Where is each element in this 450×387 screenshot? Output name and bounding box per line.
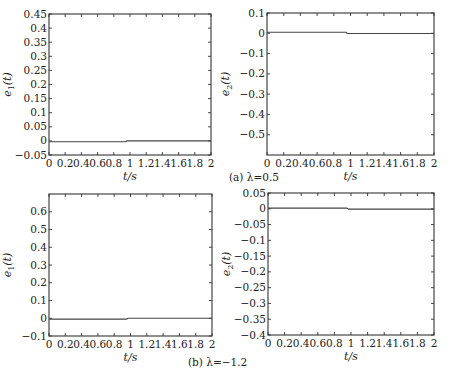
x-tick-label: 0.8 bbox=[325, 157, 342, 169]
y-tick-label: 0.3 bbox=[30, 50, 47, 62]
x-tick-label: 1.8 bbox=[186, 157, 203, 169]
caption-a: (a) λ=0.5 bbox=[229, 171, 279, 183]
x-tick-label: 1.2 bbox=[138, 338, 155, 350]
y-axis-label: e2(t) bbox=[219, 72, 234, 97]
x-tick-label: 0.8 bbox=[105, 157, 122, 169]
plot-frame bbox=[267, 13, 434, 155]
x-tick-label: 2 bbox=[208, 157, 215, 169]
y-tick-label: −0.5 bbox=[240, 128, 266, 140]
plot-frame bbox=[49, 14, 211, 155]
y-tick-label: −0.3 bbox=[240, 88, 266, 100]
y-tick-label: 0.2 bbox=[30, 276, 47, 288]
chart-a-e1: 00.20.40.60.811.21.41.61.82−0.0500.050.1… bbox=[1, 8, 214, 184]
y-tick-label: 0.45 bbox=[24, 8, 47, 20]
y-tick-label: 0.1 bbox=[30, 294, 47, 306]
x-tick-label: 1.6 bbox=[392, 337, 409, 349]
y-tick-label: 0.1 bbox=[30, 106, 47, 118]
x-tick-label: 0.2 bbox=[57, 338, 74, 350]
x-tick-label: 0.4 bbox=[293, 337, 310, 349]
y-tick-label: 0 bbox=[40, 312, 47, 324]
x-axis-label: t/s bbox=[344, 350, 358, 363]
y-tick-label: −0.2 bbox=[240, 67, 266, 79]
x-tick-label: 1.8 bbox=[409, 157, 426, 169]
x-tick-label: 1 bbox=[347, 157, 354, 169]
y-tick-label: 0.3 bbox=[30, 259, 47, 271]
y-tick-label: −0.4 bbox=[241, 329, 267, 341]
x-tick-label: 2 bbox=[431, 157, 438, 169]
x-tick-label: 1 bbox=[348, 337, 355, 349]
y-tick-label: 0.4 bbox=[30, 22, 47, 34]
x-tick-label: 1.4 bbox=[155, 338, 172, 350]
y-tick-label: 0 bbox=[40, 134, 47, 146]
figure-canvas: 00.20.40.60.811.21.41.61.82−0.0500.050.1… bbox=[0, 0, 450, 387]
y-axis-label: e2(t) bbox=[220, 252, 235, 277]
series-line-e1 bbox=[49, 318, 212, 319]
x-tick-label: 0 bbox=[264, 157, 271, 169]
x-tick-label: 1.6 bbox=[392, 157, 409, 169]
x-tick-label: 0.4 bbox=[73, 157, 90, 169]
plots-layer: 00.20.40.60.811.21.41.61.82−0.0500.050.1… bbox=[1, 7, 437, 365]
x-tick-label: 0.8 bbox=[106, 338, 123, 350]
x-tick-label: 0.6 bbox=[89, 157, 106, 169]
x-tick-label: 1 bbox=[127, 157, 134, 169]
y-tick-label: −0.2 bbox=[241, 265, 267, 277]
chart-b-e1: 00.20.40.60.811.21.41.61.82−0.100.10.20.… bbox=[1, 194, 215, 364]
y-tick-label: 0 bbox=[258, 27, 265, 39]
x-tick-label: 1.6 bbox=[170, 157, 187, 169]
x-tick-label: 0.6 bbox=[309, 157, 326, 169]
y-tick-label: −0.1 bbox=[22, 330, 48, 342]
y-tick-label: 0.2 bbox=[30, 78, 47, 90]
x-axis-label: t/s bbox=[124, 351, 138, 364]
x-tick-label: 0.8 bbox=[326, 337, 343, 349]
y-tick-label: 0.15 bbox=[24, 92, 47, 104]
y-tick-label: −0.1 bbox=[241, 234, 267, 246]
y-tick-label: 0.5 bbox=[30, 223, 47, 235]
y-tick-label: −0.35 bbox=[234, 313, 266, 325]
y-tick-label: 0.6 bbox=[30, 205, 47, 217]
x-tick-label: 2 bbox=[431, 337, 438, 349]
x-tick-label: 1.4 bbox=[376, 157, 393, 169]
x-tick-label: 0.2 bbox=[275, 157, 292, 169]
chart-b-e2: 00.20.40.60.811.21.41.61.82−0.4−0.35−0.3… bbox=[220, 187, 437, 364]
y-tick-label: 0.05 bbox=[24, 120, 47, 132]
x-tick-label: 1.4 bbox=[154, 157, 171, 169]
plot-frame bbox=[268, 193, 434, 335]
chart-a-e2: 00.20.40.60.811.21.41.61.82−0.5−0.4−0.3−… bbox=[219, 7, 437, 184]
x-tick-label: 2 bbox=[209, 338, 216, 350]
y-tick-label: −0.05 bbox=[15, 149, 47, 161]
x-tick-label: 1.2 bbox=[359, 157, 376, 169]
y-tick-label: −0.05 bbox=[234, 218, 266, 230]
y-tick-label: 0.4 bbox=[30, 241, 47, 253]
x-tick-label: 0.2 bbox=[57, 157, 74, 169]
series-line-e2 bbox=[268, 208, 434, 209]
caption-b: (b) λ=−1.2 bbox=[188, 356, 247, 368]
x-tick-label: 1.8 bbox=[409, 337, 426, 349]
series-line-e2 bbox=[267, 32, 434, 33]
y-tick-label: −0.25 bbox=[234, 281, 266, 293]
x-tick-label: 0.4 bbox=[73, 338, 90, 350]
x-tick-label: 1 bbox=[127, 338, 134, 350]
y-axis-label: e1(t) bbox=[1, 253, 16, 278]
x-tick-label: 1.4 bbox=[376, 337, 393, 349]
y-tick-label: 0.1 bbox=[248, 7, 265, 19]
y-axis-label: e1(t) bbox=[1, 72, 16, 97]
x-tick-label: 0.6 bbox=[309, 337, 326, 349]
y-tick-label: 0.25 bbox=[24, 64, 47, 76]
x-tick-label: 0.6 bbox=[90, 338, 107, 350]
x-tick-label: 1.2 bbox=[359, 337, 376, 349]
x-tick-label: 1.6 bbox=[171, 338, 188, 350]
x-tick-label: 1.2 bbox=[138, 157, 155, 169]
y-tick-label: −0.4 bbox=[240, 108, 266, 120]
series-line-e1 bbox=[49, 141, 211, 142]
x-tick-label: 0.2 bbox=[276, 337, 293, 349]
y-tick-label: −0.1 bbox=[240, 47, 266, 59]
x-axis-label: t/s bbox=[344, 170, 358, 183]
x-tick-label: 0.4 bbox=[292, 157, 309, 169]
y-tick-label: −0.3 bbox=[241, 297, 267, 309]
y-tick-label: −0.15 bbox=[234, 250, 266, 262]
y-tick-label: 0 bbox=[259, 202, 266, 214]
x-axis-label: t/s bbox=[123, 170, 137, 183]
x-tick-label: 1.8 bbox=[187, 338, 204, 350]
y-tick-label: 0.35 bbox=[24, 36, 47, 48]
y-tick-label: 0.05 bbox=[243, 187, 266, 199]
